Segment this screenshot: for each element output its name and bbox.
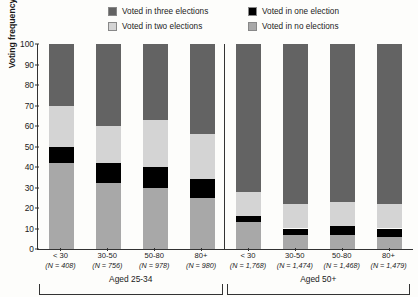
x-axis-tick-label: < 30(N = 408) <box>45 251 75 272</box>
x-axis-tick-label: 80+(N = 1,479) <box>370 251 406 272</box>
chart-legend: Voted in three elections Voted in one el… <box>108 4 408 34</box>
bar-segment <box>283 235 308 249</box>
bar-segment <box>49 163 74 249</box>
bar-group <box>377 44 402 249</box>
stacked-bar[interactable] <box>330 44 355 249</box>
x-axis-category: 30-50 <box>277 251 313 261</box>
x-axis-tick-label: 30-50(N = 1,474) <box>277 251 313 272</box>
bar-segment <box>377 229 402 237</box>
x-axis-category: 30-50 <box>92 251 122 261</box>
stacked-bar[interactable] <box>236 44 261 249</box>
x-axis-sample-size: (N = 1,474) <box>277 261 313 271</box>
bar-group <box>143 44 168 249</box>
legend-label-three-elections: Voted in three elections <box>122 7 208 16</box>
bar-segment <box>236 192 261 217</box>
stacked-bar[interactable] <box>377 44 402 249</box>
y-axis-tick-label: 20 <box>25 203 34 213</box>
x-axis-category: < 30 <box>230 251 266 261</box>
bar-segment <box>190 44 215 134</box>
y-axis-tick-label: 40 <box>25 162 34 172</box>
x-axis-sample-size: (N = 1,479) <box>370 261 406 271</box>
legend-label-no-elections: Voted in no elections <box>262 22 339 31</box>
y-axis-tick-label: 100 <box>20 39 34 49</box>
bar-segment <box>190 198 215 249</box>
x-axis-category: 80+ <box>186 251 216 261</box>
bar-segment <box>96 126 121 163</box>
y-axis-tick-label: 10 <box>25 224 34 234</box>
y-axis-tick-label: 30 <box>25 183 34 193</box>
panel-group-label: Aged 25-34 <box>109 274 152 284</box>
legend-item-no-elections: Voted in no elections <box>248 22 398 31</box>
stacked-bar[interactable] <box>283 44 308 249</box>
bar-segment <box>190 179 215 197</box>
legend-swatch-three-elections <box>108 7 117 16</box>
stacked-bar[interactable] <box>49 44 74 249</box>
panel-bracket <box>39 284 223 295</box>
stacked-bar[interactable] <box>143 44 168 249</box>
x-axis-sample-size: (N = 980) <box>186 261 216 271</box>
bar-segment <box>236 44 261 192</box>
y-axis-ticks: 0102030405060708090100 <box>16 44 38 249</box>
bar-segment <box>283 229 308 235</box>
x-axis-tick-label: < 30(N = 1,768) <box>230 251 266 272</box>
bar-segment <box>330 226 355 234</box>
bar-segment <box>143 120 168 167</box>
x-axis-category: 50-80 <box>139 251 169 261</box>
legend-swatch-no-elections <box>248 22 257 31</box>
bar-group <box>283 44 308 249</box>
bar-segment <box>330 44 355 202</box>
bar-group <box>190 44 215 249</box>
x-axis-tick-label: 30-50(N = 756) <box>92 251 122 272</box>
x-axis-sample-size: (N = 1,768) <box>230 261 266 271</box>
y-axis-tick-label: 70 <box>25 101 34 111</box>
legend-swatch-one-election <box>248 7 257 16</box>
x-axis-tick-label: 50-80(N = 978) <box>139 251 169 272</box>
x-axis-sample-size: (N = 978) <box>139 261 169 271</box>
legend-label-two-elections: Voted in two elections <box>122 22 202 31</box>
bar-segment <box>236 216 261 222</box>
x-axis-labels: < 30(N = 408)30-50(N = 756)50-80(N = 978… <box>37 251 412 273</box>
bar-group <box>330 44 355 249</box>
bar-segment <box>283 44 308 204</box>
x-axis-sample-size: (N = 408) <box>45 261 75 271</box>
y-axis-tick-label: 50 <box>25 142 34 152</box>
x-axis-category: < 30 <box>45 251 75 261</box>
stacked-bar[interactable] <box>96 44 121 249</box>
panel-group-brackets: Aged 25-34Aged 50+ <box>37 274 412 296</box>
panel-bracket <box>227 284 411 295</box>
bar-segment <box>143 44 168 120</box>
bar-segment <box>49 106 74 147</box>
bar-segment <box>96 163 121 184</box>
voting-frequency-chart: Voted in three elections Voted in one el… <box>0 0 418 297</box>
legend-label-one-election: Voted in one election <box>262 7 339 16</box>
plot-area: Voting frequency (percent) 0102030405060… <box>37 44 413 250</box>
x-axis-sample-size: (N = 1,468) <box>324 261 360 271</box>
stacked-bar[interactable] <box>190 44 215 249</box>
bar-segment <box>190 134 215 179</box>
bar-segment <box>96 44 121 126</box>
bar-segment <box>96 183 121 249</box>
legend-item-three-elections: Voted in three elections <box>108 7 248 16</box>
x-axis-sample-size: (N = 756) <box>92 261 122 271</box>
bar-segment <box>377 237 402 249</box>
x-axis-category: 80+ <box>370 251 406 261</box>
legend-swatch-two-elections <box>108 22 117 31</box>
bar-segment <box>236 222 261 249</box>
bar-segment <box>49 44 74 106</box>
x-axis-tick-label: 80+(N = 980) <box>186 251 216 272</box>
panel-divider <box>224 44 225 249</box>
y-axis-tick-label: 0 <box>29 244 34 254</box>
y-axis-tick-label: 60 <box>25 121 34 131</box>
y-axis-tick-label: 80 <box>25 80 34 90</box>
legend-item-one-election: Voted in one election <box>248 7 398 16</box>
x-axis-tick-label: 50-80(N = 1,468) <box>324 251 360 272</box>
bar-group <box>236 44 261 249</box>
bar-group <box>49 44 74 249</box>
legend-item-two-elections: Voted in two elections <box>108 22 248 31</box>
y-axis-tick-label: 90 <box>25 60 34 70</box>
bar-segment <box>330 202 355 227</box>
x-axis-category: 50-80 <box>324 251 360 261</box>
bar-group <box>96 44 121 249</box>
bar-segment <box>283 204 308 229</box>
bar-segment <box>377 204 402 229</box>
